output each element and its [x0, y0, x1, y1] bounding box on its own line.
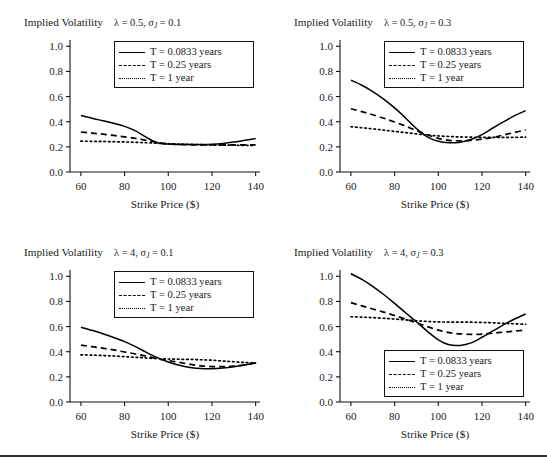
figure-implied-volatility-smiles: Implied Volatility λ = 0.5, σJ = 0.10.00… [0, 0, 547, 470]
legend-item: T = 1 year [119, 301, 248, 314]
legend-dashed-line-icon [119, 59, 145, 70]
series-line-1 [351, 274, 526, 346]
legend-item-label: T = 0.25 years [420, 58, 481, 71]
legend: T = 0.0833 yearsT = 0.25 yearsT = 1 year [384, 350, 524, 397]
x-tick-label: 80 [389, 181, 400, 192]
x-tick-label: 120 [474, 181, 491, 192]
legend-solid-line-icon [389, 355, 415, 366]
series-line-1 [81, 327, 256, 369]
legend-item-label: T = 0.25 years [420, 367, 481, 380]
x-tick-label: 100 [430, 181, 447, 192]
legend-item-label: T = 0.0833 years [420, 354, 492, 367]
y-tick-label: 0.0 [49, 397, 63, 408]
legend-dotted-line-icon [389, 72, 415, 83]
y-tick-label: 0.2 [49, 371, 63, 382]
legend-solid-line-icon [119, 276, 145, 287]
x-tick-label: 80 [119, 411, 130, 422]
legend: T = 0.0833 yearsT = 0.25 yearsT = 1 year [384, 41, 524, 88]
y-axis-title: Implied Volatility [294, 246, 373, 258]
panel-lambda05-sigma01: Implied Volatility λ = 0.5, σJ = 0.10.00… [2, 10, 274, 235]
x-tick-label: 120 [204, 411, 221, 422]
x-tick-label: 120 [474, 411, 491, 422]
x-tick-label: 60 [345, 181, 356, 192]
x-tick-label: 120 [204, 181, 221, 192]
y-tick-label: 0.6 [49, 321, 63, 332]
x-tick-label: 140 [247, 181, 264, 192]
y-axis-title: Implied Volatility [294, 16, 373, 28]
legend: T = 0.0833 yearsT = 0.25 yearsT = 1 year [114, 271, 254, 318]
y-tick-label: 1.0 [49, 41, 63, 52]
panel-parameters: λ = 4, σJ = 0.3 [384, 247, 443, 258]
panel-parameters: λ = 0.5, σJ = 0.1 [114, 17, 181, 28]
y-tick-label: 0.8 [49, 296, 63, 307]
x-axis-title: Strike Price ($) [131, 198, 199, 210]
legend-item-label: T = 0.25 years [150, 58, 211, 71]
cropped-caption-fragment [0, 0, 547, 9]
legend-item-label: T = 1 year [420, 71, 464, 84]
legend-item-label: T = 1 year [150, 71, 194, 84]
y-tick-label: 0.6 [49, 91, 63, 102]
y-tick-label: 0.4 [319, 346, 333, 357]
y-tick-label: 0.8 [319, 296, 333, 307]
y-tick-label: 1.0 [49, 271, 63, 282]
x-tick-label: 60 [75, 181, 86, 192]
panel-lambda4-sigma03: Implied Volatility λ = 4, σJ = 0.30.00.2… [272, 240, 544, 465]
series-line-2 [81, 345, 256, 367]
series-line-1 [81, 115, 256, 144]
y-tick-label: 0.2 [49, 141, 63, 152]
series-line-1 [351, 80, 526, 143]
legend-dashed-line-icon [389, 59, 415, 70]
panel-parameters: λ = 0.5, σJ = 0.3 [384, 17, 451, 28]
x-tick-label: 60 [75, 411, 86, 422]
legend-item-label: T = 1 year [420, 380, 464, 393]
x-tick-label: 140 [517, 181, 534, 192]
x-tick-label: 140 [247, 411, 264, 422]
y-tick-label: 0.4 [49, 346, 63, 357]
panel-lambda4-sigma01: Implied Volatility λ = 4, σJ = 0.10.00.2… [2, 240, 274, 465]
y-tick-label: 0.8 [49, 66, 63, 77]
x-axis-title: Strike Price ($) [131, 428, 199, 440]
y-tick-label: 0.4 [49, 116, 63, 127]
x-tick-label: 100 [160, 411, 177, 422]
y-tick-label: 0.6 [319, 321, 333, 332]
x-tick-label: 80 [389, 411, 400, 422]
legend-dotted-line-icon [389, 381, 415, 392]
legend-dashed-line-icon [389, 368, 415, 379]
panel-parameters: λ = 4, σJ = 0.1 [114, 247, 173, 258]
series-line-3 [351, 317, 526, 325]
x-tick-label: 80 [119, 181, 130, 192]
legend-item: T = 0.25 years [119, 288, 248, 301]
panel-header: Implied Volatility λ = 4, σJ = 0.1 [24, 246, 173, 262]
legend-item: T = 0.25 years [119, 58, 248, 71]
legend-item: T = 0.25 years [389, 58, 518, 71]
panel-header: Implied Volatility λ = 0.5, σJ = 0.3 [294, 16, 451, 32]
legend-item-label: T = 0.0833 years [150, 45, 222, 58]
legend-item: T = 0.0833 years [119, 45, 248, 58]
y-axis-title: Implied Volatility [24, 246, 103, 258]
x-axis-title: Strike Price ($) [401, 198, 469, 210]
panel-header: Implied Volatility λ = 4, σJ = 0.3 [294, 246, 443, 262]
y-tick-label: 0.0 [319, 397, 333, 408]
legend-dashed-line-icon [119, 289, 145, 300]
y-tick-label: 0.8 [319, 66, 333, 77]
x-tick-label: 140 [517, 411, 534, 422]
panel-lambda05-sigma03: Implied Volatility λ = 0.5, σJ = 0.30.00… [272, 10, 544, 235]
y-tick-label: 1.0 [319, 271, 333, 282]
y-tick-label: 0.0 [319, 167, 333, 178]
legend-item: T = 0.0833 years [389, 45, 518, 58]
series-line-2 [351, 303, 526, 335]
y-tick-label: 1.0 [319, 41, 333, 52]
bottom-divider-rule [0, 455, 547, 457]
x-axis-title: Strike Price ($) [401, 428, 469, 440]
legend-item: T = 1 year [389, 71, 518, 84]
legend-item-label: T = 0.0833 years [420, 45, 492, 58]
legend-item: T = 1 year [389, 380, 518, 393]
y-tick-label: 0.2 [319, 371, 333, 382]
legend-item-label: T = 1 year [150, 301, 194, 314]
legend-item: T = 0.0833 years [389, 354, 518, 367]
legend-item: T = 0.0833 years [119, 275, 248, 288]
legend-item: T = 1 year [119, 71, 248, 84]
legend: T = 0.0833 yearsT = 0.25 yearsT = 1 year [114, 41, 254, 88]
legend-item: T = 0.25 years [389, 367, 518, 380]
y-tick-label: 0.2 [319, 141, 333, 152]
